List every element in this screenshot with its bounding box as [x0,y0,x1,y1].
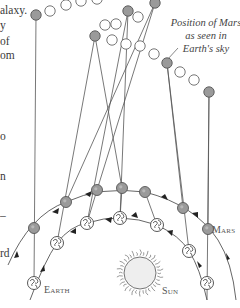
earth-globe-icon [28,277,41,290]
sun-ray [153,284,156,286]
sun-ray [120,261,125,264]
sun-ray [130,255,132,258]
text-fragment: alaxy. [0,5,27,17]
caption-line-3: Earth's sky [168,42,240,55]
mars-sky-position [133,12,143,22]
sun-ray [120,279,123,280]
mars-sky-position-marked [123,6,133,16]
sun-ray [125,255,129,260]
caption-line-2: as seen in [168,29,240,42]
sun-ray [157,269,163,270]
mars-sky-position-marked [162,58,172,68]
sun-ray [157,276,163,277]
sun-ray [124,284,127,286]
mars-sky-position [107,35,117,45]
mars-planet [178,203,189,214]
earth-globe-icon [81,217,94,230]
mars-sky-position-marked [90,31,100,41]
mars-sky-position [135,41,145,51]
sun-ray [132,251,134,257]
sun-ray [149,255,151,258]
sun-icon [117,250,163,297]
mars-highlight [31,225,34,228]
sun-ray [143,290,144,293]
mars-sky-position-marked [204,87,214,97]
mars-highlight [119,185,122,188]
mars-planet [117,183,128,194]
sun-ray [146,251,148,257]
mars-position-caption: Position of Mars as seen in Earth's sky [168,16,240,55]
sun-ray [136,252,137,255]
sun-ray [156,279,159,280]
sun-ray [139,291,140,297]
text-fragment: om [0,50,15,62]
mars-sky-position [92,0,102,4]
mars-planet [29,223,40,234]
earth-globe-icon [51,237,64,250]
mars-planet [140,187,151,198]
earth-globe-icon [114,212,127,225]
mars-highlight [180,205,183,208]
sun-ray [158,273,162,274]
earth-globe-icon [151,219,164,232]
sun-ray [120,282,125,285]
mars-sky-position-marked [31,10,41,20]
sun-disc [124,257,156,289]
sun-ray [132,289,134,295]
mars-sky-position [61,0,71,10]
sun-label: Sun [162,285,178,296]
sun-ray [120,266,123,267]
sight-line [167,63,189,251]
text-fragment: y [0,20,6,32]
sun-ray [151,255,155,260]
sun-ray [143,252,144,255]
mars-sky-position [76,0,86,6]
sight-line [34,15,36,283]
sight-line [66,3,155,202]
text-fragment: o [0,131,6,143]
mars-highlight [94,187,97,190]
sun-ray [153,260,156,262]
sun-ray [155,282,160,285]
mars-sky-position [121,39,131,49]
mars-sky-position-marked [150,0,160,8]
mars-sky-position [111,19,121,29]
mars-planet [92,185,103,196]
sight-line [207,92,209,300]
mars-highlight [142,189,145,192]
text-fragment: rd [0,248,10,260]
text-fragment: – [0,210,6,222]
sun-ray [151,286,155,291]
mars-sky-position [189,75,199,85]
sun-ray [155,261,160,264]
mars-sky-position [100,20,110,30]
mars-highlight [205,226,208,229]
earth-globe-icon [183,245,196,258]
mars-sky-position [45,6,55,16]
mars-highlight [63,199,66,202]
mars-planet [61,197,72,208]
retrograde-diagram: alaxy.y ofomon–rd Position of Mars as se… [0,0,240,308]
sun-ray [117,269,123,270]
mars-sky-position [175,67,185,77]
sun-ray [146,289,148,295]
caption-line-1: Position of Mars [168,16,240,29]
text-fragment: n [0,171,6,183]
earth-globe-icon [201,277,214,290]
sun-ray [124,260,127,262]
text-fragment: of [0,36,10,48]
mars-sky-position [149,49,159,59]
sun-ray [117,276,123,277]
sun-ray [140,250,141,256]
sun-ray [125,286,129,291]
earth-label: Earth [44,284,70,295]
sun-ray [135,290,137,293]
sun-ray [148,288,150,291]
sun-ray [130,288,132,291]
mars-label: Mars [212,224,235,235]
sun-ray [156,266,159,267]
mars-orbit-arrows [14,191,230,260]
sun-ray [119,272,123,273]
